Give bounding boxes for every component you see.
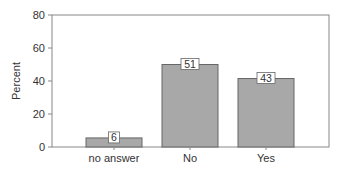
y-axis: 020406080 [33,9,52,153]
bar-no [162,65,218,148]
y-tick-label: 0 [39,141,45,153]
x-tick-label: No [183,152,197,164]
data-label: 43 [260,72,272,84]
y-tick-label: 40 [33,75,45,87]
y-tick-label: 20 [33,108,45,120]
y-tick-label: 80 [33,9,45,21]
data-label: 51 [184,58,196,70]
bar-chart: 020406080 Percent no answer6No51Yes43 [0,0,345,180]
bar-yes [238,79,294,147]
data-label: 6 [111,131,117,143]
x-tick-label: Yes [257,152,275,164]
y-tick-label: 60 [33,42,45,54]
x-tick-label: no answer [89,152,140,164]
y-axis-label: Percent [10,62,22,100]
